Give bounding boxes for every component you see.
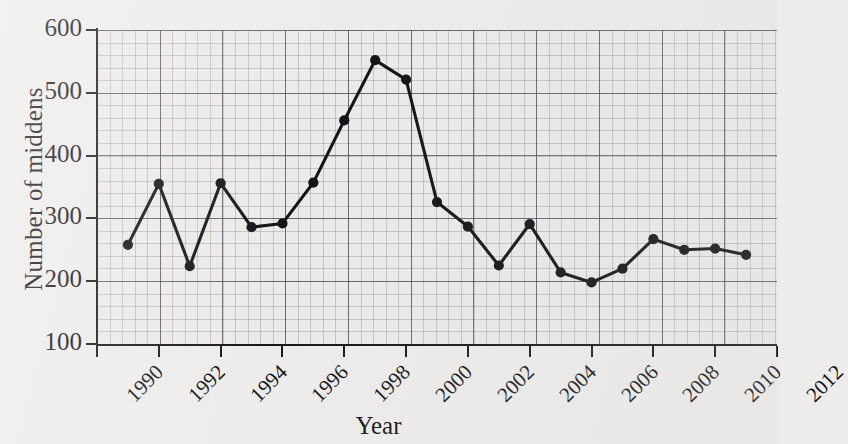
data-point [741, 250, 751, 260]
data-point [185, 261, 195, 271]
data-point [679, 245, 689, 255]
data-point [370, 55, 380, 65]
data-point [463, 221, 473, 231]
data-point [216, 178, 226, 188]
data-point [154, 179, 164, 189]
data-point [123, 240, 133, 250]
x-axis-title-text: Year [355, 412, 401, 439]
data-point [432, 197, 442, 207]
data-point [277, 218, 287, 228]
data-point [710, 243, 720, 253]
data-point [556, 267, 566, 277]
series-markers [123, 55, 751, 288]
data-point [246, 222, 256, 232]
data-point [308, 178, 318, 188]
data-point [648, 234, 658, 244]
x-tick-label: 2012 [801, 360, 848, 407]
data-point [339, 115, 349, 125]
x-axis-title: Year [0, 412, 777, 440]
data-point [586, 277, 596, 287]
series-line [128, 60, 746, 282]
data-point [401, 75, 411, 85]
data-point [525, 219, 535, 229]
data-point [617, 264, 627, 274]
data-point [494, 260, 504, 270]
